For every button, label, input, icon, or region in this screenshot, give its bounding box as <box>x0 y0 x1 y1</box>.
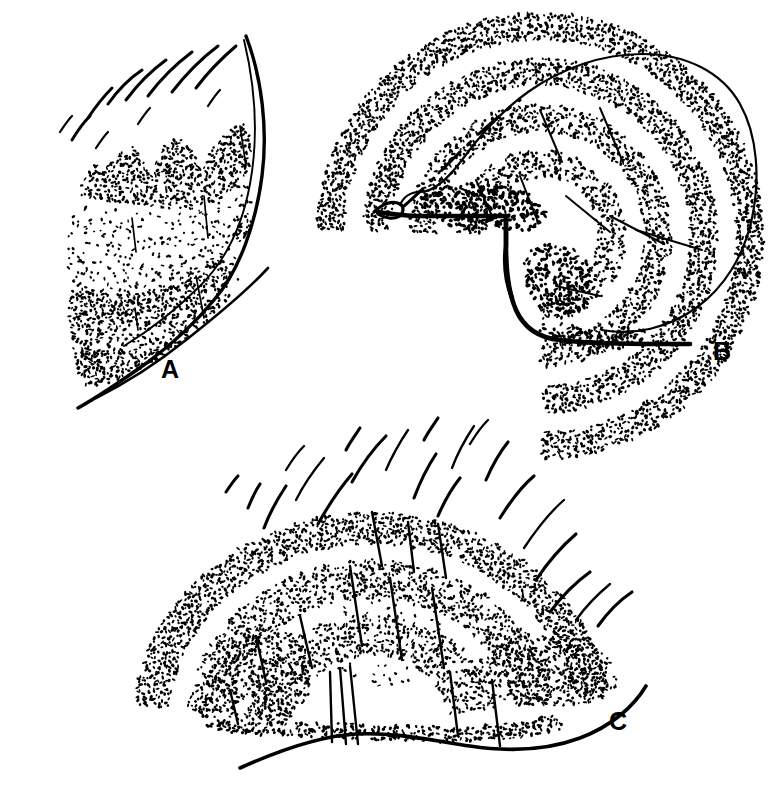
stipple-dot <box>577 399 580 402</box>
stipple-dot <box>497 557 499 561</box>
stipple-dot <box>726 310 730 313</box>
stipple-dot <box>108 170 111 173</box>
stipple-dot <box>646 399 649 402</box>
stipple-dot <box>380 532 383 535</box>
stipple-dot <box>507 619 510 621</box>
stipple-dot <box>513 734 517 737</box>
stipple-dot <box>511 40 513 42</box>
stipple-dot <box>548 123 551 128</box>
stipple-dot <box>155 179 159 182</box>
stipple-dot <box>725 302 730 304</box>
stipple-dot <box>135 293 139 295</box>
stipple-dot <box>533 647 537 650</box>
stipple-dot <box>638 203 643 205</box>
stipple-dot <box>350 723 355 725</box>
stipple-dot <box>697 258 700 260</box>
stipple-dot <box>555 83 560 85</box>
stipple-dot <box>326 187 328 191</box>
stipple-dot <box>411 83 414 86</box>
stipple-dot <box>401 530 405 533</box>
stipple-dot <box>639 163 641 166</box>
stipple-dot <box>284 579 286 582</box>
stipple-dot <box>536 733 539 735</box>
stipple-dot <box>252 722 255 725</box>
stipple-dot <box>550 63 555 66</box>
stipple-dot <box>729 161 731 164</box>
stipple-dot <box>733 325 737 328</box>
panel-label-b: B <box>713 337 731 365</box>
figure-root: A B C <box>0 0 780 798</box>
stipple-dot <box>585 283 589 289</box>
stipple-dot <box>174 245 176 247</box>
scientific-figure-svg: A B C <box>0 0 780 798</box>
stipple-dot <box>355 591 359 593</box>
stipple-dot <box>681 324 686 326</box>
stipple-dot <box>323 648 326 652</box>
stipple-dot <box>732 160 735 163</box>
stipple-dot <box>621 90 623 93</box>
panel-label-a: A <box>161 355 179 383</box>
stipple-dot <box>639 372 642 375</box>
stipple-dot <box>434 124 437 126</box>
stipple-dot <box>547 153 550 157</box>
stipple-dot <box>495 621 498 623</box>
stipple-dot <box>174 148 179 150</box>
stipple-dot <box>595 139 597 144</box>
stipple-dot <box>660 79 665 82</box>
stipple-dot <box>489 726 492 728</box>
stipple-dot <box>315 519 318 521</box>
panel-label-c: C <box>609 707 627 735</box>
stipple-dot <box>581 294 583 298</box>
stipple-dot <box>625 375 629 378</box>
stipple-dot <box>691 379 694 381</box>
stipple-dot <box>571 650 574 653</box>
